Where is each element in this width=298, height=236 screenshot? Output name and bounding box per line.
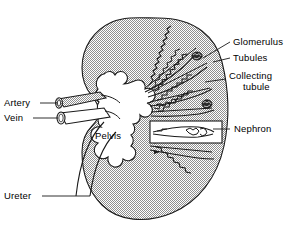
label-collecting-tubule: Collecting tubule: [229, 70, 295, 92]
label-vein: Vein: [4, 112, 23, 123]
label-pelvis: Pelvis: [95, 130, 121, 141]
label-tubules: Tubules: [233, 52, 268, 63]
label-nephron: Nephron: [234, 123, 272, 134]
glomerulus-cluster: [192, 52, 202, 60]
glomerulus-cluster: [202, 100, 212, 108]
label-collecting-tubule-line2: tubule: [229, 81, 270, 92]
label-glomerulus: Glomerulus: [233, 36, 283, 47]
label-artery: Artery: [4, 97, 30, 108]
label-collecting-tubule-line1: Collecting: [229, 70, 272, 81]
nephron-magnified-box: [150, 121, 222, 143]
kidney-diagram-figure: Glomerulus Tubules Collecting tubule Nep…: [0, 0, 298, 236]
label-ureter: Ureter: [4, 190, 31, 201]
